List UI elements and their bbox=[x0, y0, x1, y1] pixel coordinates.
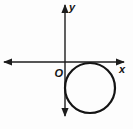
coordinate-plane-figure: y x O bbox=[0, 0, 133, 129]
figure-svg: y x O bbox=[0, 0, 133, 129]
y-axis-label: y bbox=[68, 1, 76, 13]
origin-label: O bbox=[54, 67, 63, 79]
tangent-circle bbox=[65, 63, 115, 113]
x-axis-label: x bbox=[118, 63, 126, 75]
